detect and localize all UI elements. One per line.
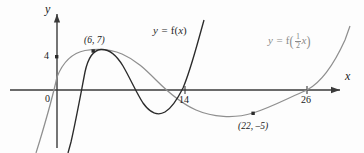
curve-label-fx: y = f(x) xyxy=(153,25,187,36)
curve-label-fx-yeq: y = xyxy=(153,24,171,36)
curve-label-fhx-yeq: y = xyxy=(268,34,286,46)
curve-label-fhx-close-paren: ) xyxy=(307,34,311,49)
curve-label-fhx-open-paren: ( xyxy=(290,34,294,49)
min-point-label: (22, –5) xyxy=(238,122,268,132)
curve-label-f-half-x: y = f(12x) xyxy=(268,33,311,51)
y-axis-label: y xyxy=(45,3,50,15)
plot-canvas xyxy=(0,0,364,153)
x-axis-label: x xyxy=(345,70,350,82)
y-intercept-label: 4 xyxy=(44,51,49,61)
x-axis xyxy=(10,87,340,93)
x-tick-label-26: 26 xyxy=(301,95,311,105)
data-point-markers xyxy=(55,49,255,115)
curve-label-fx-close: ) xyxy=(183,24,187,36)
graph-figure: y x 0 4 14 26 (6, 7) (22, –5) y = f(x) y… xyxy=(0,0,364,153)
x-tick-label-14: 14 xyxy=(179,95,189,105)
max-point-label: (6, 7) xyxy=(84,36,105,46)
y-axis xyxy=(54,14,60,148)
origin-label: 0 xyxy=(45,94,50,104)
